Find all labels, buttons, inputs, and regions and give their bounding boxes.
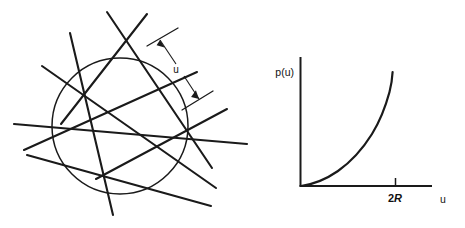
figure-canvas: u p(u) u 2R bbox=[0, 0, 465, 228]
dimension-leader-top bbox=[160, 40, 176, 64]
chord-line-group bbox=[14, 12, 247, 215]
pdf-curve bbox=[301, 72, 393, 186]
circle-outline bbox=[52, 58, 188, 194]
dimension-arrowhead-bottom bbox=[191, 90, 199, 99]
tick-label-radius-symbol: R bbox=[394, 192, 402, 204]
dimension-witness-tick-bottom bbox=[182, 91, 213, 110]
x-axis-label: u bbox=[440, 193, 446, 205]
dimension-arrowhead-top bbox=[157, 40, 165, 47]
figure-root: u p(u) u 2R bbox=[0, 0, 465, 228]
random-chords-diagram: u bbox=[14, 12, 247, 215]
chord-line bbox=[96, 109, 227, 179]
y-axis-label: p(u) bbox=[275, 66, 294, 78]
chord-line bbox=[61, 14, 147, 124]
chord-length-label: u bbox=[173, 64, 179, 75]
chord-line bbox=[27, 155, 211, 206]
x-axis-tick-label-2R: 2R bbox=[388, 192, 402, 204]
chord-length-pdf-plot: p(u) u 2R bbox=[275, 57, 446, 205]
